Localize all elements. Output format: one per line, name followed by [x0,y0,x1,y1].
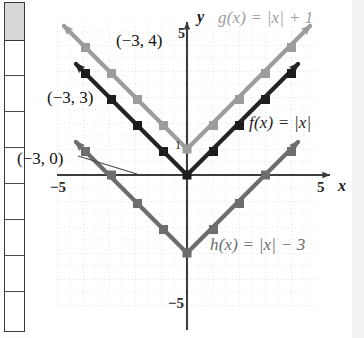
y-tick-1: 1 [175,139,181,151]
table-row-divider [5,75,24,76]
x-tick-neg5: −5 [50,180,66,195]
y-axis-label: y [197,9,204,25]
point-label-g: (−3, 4) [116,32,162,49]
page-left-margin [0,0,30,338]
page-right-margin [352,0,364,338]
point-label-h: (−3, 0) [17,150,63,167]
table-row-divider [5,219,24,220]
coordinate-plot [30,0,352,338]
function-label-g: g(x) = |x| + 1 [218,9,314,26]
table-row-divider [5,183,24,184]
graph-svg [30,0,352,338]
function-label-h: h(x) = |x| − 3 [210,236,306,253]
function-label-f: f(x) = |x| [249,114,311,131]
figure-canvas: g(x) = |x| + 1 f(x) = |x| h(x) = |x| − 3… [0,0,364,338]
table-row-divider [5,291,24,292]
point-label-f: (−3, 3) [47,89,93,106]
x-axis-label: x [338,178,346,194]
y-tick-5: 5 [178,27,185,41]
table-row-divider [5,111,24,112]
table-row-divider [5,255,24,256]
table-header-cell [5,3,24,41]
x-tick-5: 5 [317,180,325,195]
y-tick-neg5: −5 [168,296,184,311]
table-row-divider [5,147,24,148]
